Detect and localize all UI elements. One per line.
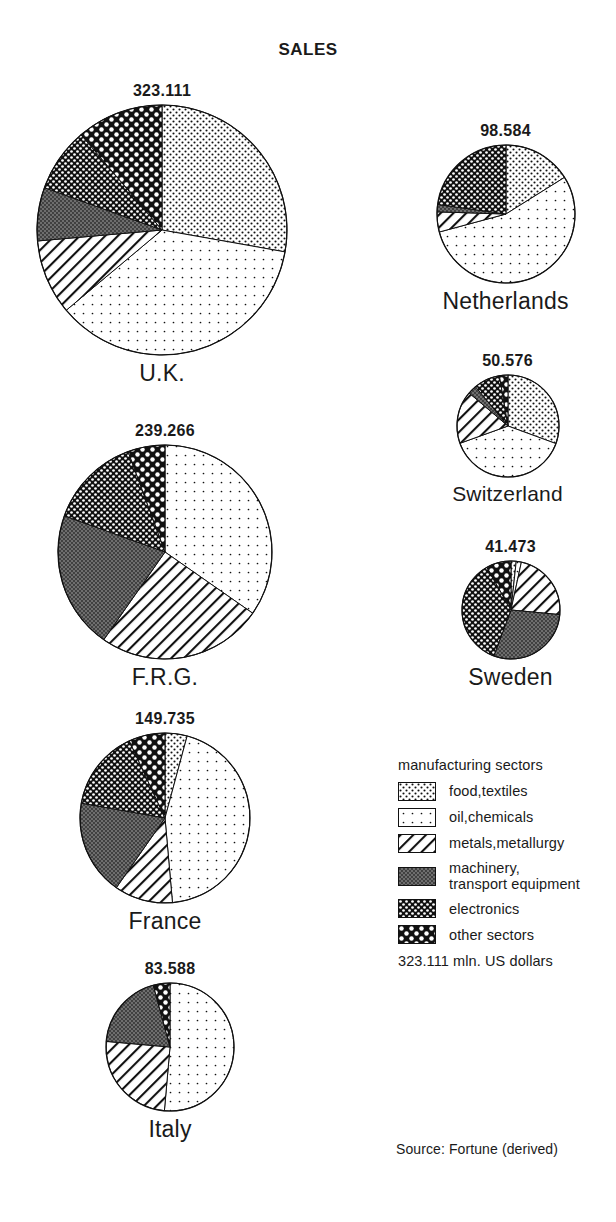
pie-slice-food [162,105,287,252]
pie-chart-sweden: 41.473Sweden [428,538,593,691]
pie-chart-netherlands: 98.584Netherlands [408,122,603,315]
pie-chart-france: 149.735France [50,710,280,935]
legend-label: metals,metallurgy [449,835,564,851]
legend-item-machinery: machinery,transport equipment [398,860,613,892]
pie-chart-uk: 323.111U.K. [12,82,312,387]
legend-item-other: other sectors [398,925,613,944]
pie-country-label: Italy [80,1116,260,1143]
legend-swatch-machinery-icon [398,867,436,886]
pie-graphic [30,442,300,662]
pie-country-label: Sweden [428,664,593,691]
legend-label: other sectors [449,927,534,943]
pie-chart-frg: 239.266F.R.G. [30,422,300,691]
legend-label: electronics [449,901,519,917]
source-note: Source: Fortune (derived) [396,1141,558,1157]
legend-title: manufacturing sectors [398,757,613,773]
legend-swatch-oil-icon [398,808,436,827]
pie-graphic [408,142,603,286]
legend-label: oil,chemicals [449,809,533,825]
pie-slice-oil [164,983,234,1111]
page-title: SALES [0,40,616,60]
legend: manufacturing sectors food,textilesoil,c… [398,757,613,969]
chart-canvas: SALES 323.111U.K.239.266F.R.G.149.735Fra… [0,0,616,1222]
pie-chart-italy: 83.588Italy [80,960,260,1143]
pie-total-value: 323.111 [12,82,312,100]
legend-item-oil: oil,chemicals [398,808,613,827]
legend-items: food,textilesoil,chemicalsmetals,metallu… [398,782,613,944]
legend-swatch-electronics-icon [398,899,436,918]
pie-country-label: Netherlands [408,288,603,315]
pie-total-value: 149.735 [50,710,280,728]
pie-country-label: France [50,908,280,935]
pie-total-value: 50.576 [420,352,595,370]
pie-total-value: 98.584 [408,122,603,140]
pie-country-label: U.K. [12,360,312,387]
legend-label: machinery,transport equipment [449,860,580,892]
legend-item-food: food,textiles [398,782,613,801]
pie-total-value: 41.473 [428,538,593,556]
pie-country-label: Switzerland [420,482,595,506]
pie-graphic [80,980,260,1114]
pie-total-value: 239.266 [30,422,300,440]
pie-chart-switzerland: 50.576Switzerland [420,352,595,506]
pie-graphic [428,558,593,662]
legend-swatch-metals-icon [398,834,436,853]
legend-item-metals: metals,metallurgy [398,834,613,853]
legend-swatch-other-icon [398,925,436,944]
legend-unit-note: 323.111 mln. US dollars [398,953,613,969]
pie-slice-metals [106,1041,170,1110]
pie-graphic [12,102,312,358]
legend-item-electronics: electronics [398,899,613,918]
pie-slice-electronics [437,145,505,214]
pie-country-label: F.R.G. [30,664,300,691]
pie-graphic [420,372,595,480]
legend-label: food,textiles [449,783,528,799]
pie-total-value: 83.588 [80,960,260,978]
pie-graphic [50,730,280,906]
legend-swatch-food-icon [398,782,436,801]
